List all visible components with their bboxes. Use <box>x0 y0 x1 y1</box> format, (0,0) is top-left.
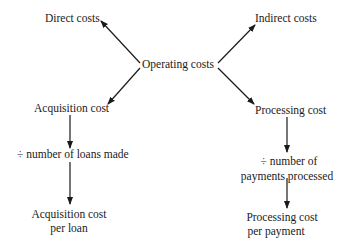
processing-per-payment-line2: per payment <box>247 224 304 238</box>
cost-flow-diagram: Direct costs Indirect costs Operating co… <box>0 0 350 247</box>
acquisition-per-loan-line1: Acquisition cost <box>31 207 106 221</box>
arrow-to-direct-costs <box>101 21 140 63</box>
direct-costs-label: Direct costs <box>45 11 100 25</box>
loans-divisor-label: ÷ number of loans made <box>17 147 129 161</box>
payments-divisor-line2: payments processed <box>241 169 333 183</box>
operating-costs-label: Operating costs <box>142 57 214 71</box>
payments-divisor-line1: ÷ number of <box>261 154 318 168</box>
arrow-to-acquisition-cost <box>108 68 140 104</box>
arrow-to-processing-cost <box>218 68 254 104</box>
processing-per-payment-line1: Processing cost <box>246 210 317 224</box>
acquisition-cost-label: Acquisition cost <box>34 101 109 115</box>
acquisition-per-loan-line2: per loan <box>50 221 87 235</box>
arrow-to-indirect-costs <box>218 25 255 63</box>
indirect-costs-label: Indirect costs <box>255 11 317 25</box>
processing-cost-label: Processing cost <box>255 103 326 117</box>
